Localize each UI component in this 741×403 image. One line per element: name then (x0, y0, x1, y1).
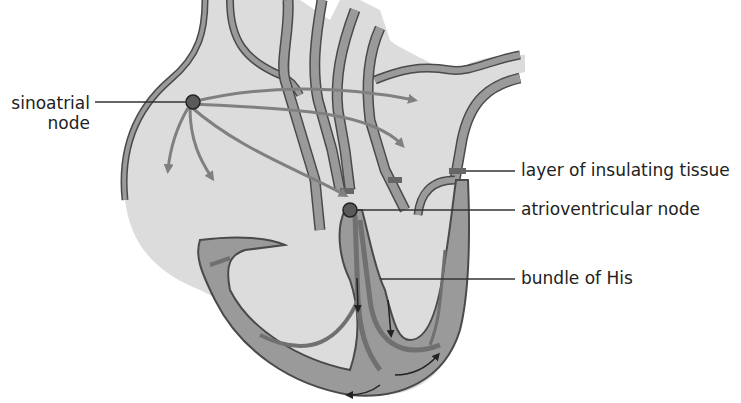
insulating-band (449, 168, 466, 174)
label-bundle-of-his: bundle of His (521, 268, 633, 288)
label-insulating-tissue: layer of insulating tissue (521, 160, 730, 180)
sinoatrial-node (186, 95, 200, 109)
label-atrioventricular-node: atrioventricular node (521, 199, 700, 219)
label-line1: sinoatrial (6, 93, 90, 113)
label-sinoatrial-node: sinoatrial node (6, 93, 90, 133)
heart-conduction-diagram: sinoatrial node layer of insulating tiss… (0, 0, 741, 403)
label-line2: node (6, 113, 90, 133)
atrioventricular-node (343, 203, 357, 217)
